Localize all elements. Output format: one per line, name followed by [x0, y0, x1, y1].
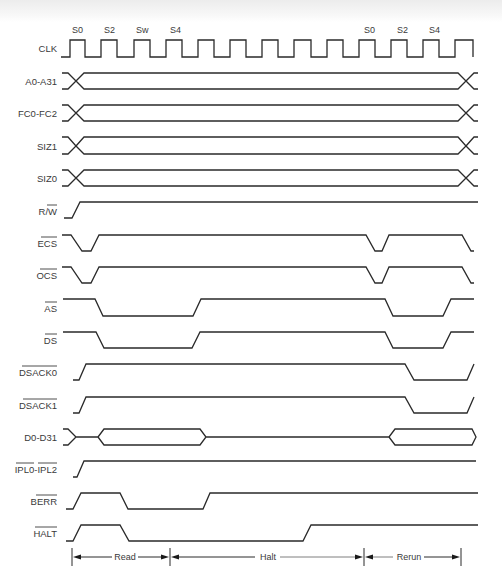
- waveform-r-w: [64, 202, 478, 218]
- label-clk: CLK: [39, 43, 58, 54]
- waveform-a0-a31: [62, 73, 478, 89]
- state-label-s2: S2: [104, 25, 115, 35]
- label-r-w-prefix: R/: [39, 206, 49, 217]
- svg-text:ECS: ECS: [37, 238, 57, 249]
- waveform-dsack1: [73, 397, 474, 413]
- waveform-ocs: [62, 267, 474, 283]
- label-d0-d31: D0-D31: [24, 432, 57, 443]
- state-label-s4-rerun: S4: [429, 25, 440, 35]
- label-ds: DS: [44, 334, 57, 346]
- label-dsack1: DSACK1: [19, 399, 57, 411]
- svg-text:OCS: OCS: [36, 270, 57, 281]
- state-label-s2-rerun: S2: [397, 25, 408, 35]
- label-halt: HALT: [33, 527, 57, 539]
- state-labels: S0 S2 Sw S4 S0 S2 S4: [72, 25, 440, 35]
- label-r-w-bar: W: [48, 206, 57, 217]
- waveform-clk: [61, 40, 473, 57]
- waveform-siz0: [62, 170, 478, 186]
- label-as: AS: [44, 302, 57, 314]
- arrow-left-icon: [171, 555, 179, 560]
- waveform-dsack0: [73, 364, 474, 380]
- arrow-left-icon: [73, 555, 81, 560]
- waveform-siz1: [62, 137, 478, 154]
- label-siz1: SIZ1: [37, 141, 57, 152]
- waveform-halt: [66, 525, 478, 541]
- phase-halt-label: Halt: [260, 552, 277, 562]
- arrow-left-icon: [365, 555, 373, 560]
- arrow-right-icon: [452, 555, 460, 560]
- label-siz0: SIZ0: [37, 173, 57, 184]
- state-label-s4: S4: [170, 25, 181, 35]
- svg-text:DSACK1: DSACK1: [19, 400, 57, 411]
- svg-text:AS: AS: [44, 303, 57, 314]
- svg-text:BERR: BERR: [31, 496, 58, 507]
- waveform-d0-d31: [63, 429, 476, 445]
- state-label-s0-rerun: S0: [364, 25, 375, 35]
- waveforms: [61, 40, 478, 541]
- state-label-s0: S0: [72, 25, 83, 35]
- waveform-ds: [63, 332, 474, 348]
- svg-text:HALT: HALT: [33, 528, 57, 539]
- svg-text:DS: DS: [44, 335, 57, 346]
- waveform-as: [63, 299, 474, 316]
- phase-rerun-label: Rerun: [397, 552, 422, 562]
- svg-text:R/W: R/W: [39, 206, 58, 217]
- label-ecs: ECS: [37, 237, 57, 249]
- waveform-berr: [66, 493, 478, 509]
- waveform-ecs: [62, 235, 474, 251]
- waveform-ipl0-ipl2: [73, 461, 476, 477]
- phase-read-label: Read: [114, 552, 136, 562]
- label-a0-a31: A0-A31: [25, 76, 57, 87]
- arrow-right-icon: [161, 555, 169, 560]
- arrow-right-icon: [355, 555, 363, 560]
- signal-labels: CLK A0-A31 FC0-FC2 SIZ1 SIZ0 R/W ECS OCS…: [15, 43, 58, 539]
- label-ipl0-ipl2: IPL0-IPL2: [15, 463, 57, 475]
- label-fc0-fc2: FC0-FC2: [18, 108, 57, 119]
- label-r-w: R/W: [39, 205, 58, 217]
- phase-annotations: Read Halt Rerun: [72, 548, 461, 566]
- state-label-sw: Sw: [136, 25, 149, 35]
- label-ocs: OCS: [36, 269, 57, 281]
- svg-text:IPL0-IPL2: IPL0-IPL2: [15, 464, 57, 475]
- label-berr: BERR: [31, 495, 58, 507]
- svg-text:DSACK0: DSACK0: [19, 367, 57, 378]
- waveform-fc0-fc2: [62, 105, 478, 121]
- label-dsack0: DSACK0: [19, 366, 57, 378]
- timing-diagram: S0 S2 Sw S4 S0 S2 S4 CLK A0-A31 FC0-FC2 …: [0, 0, 502, 588]
